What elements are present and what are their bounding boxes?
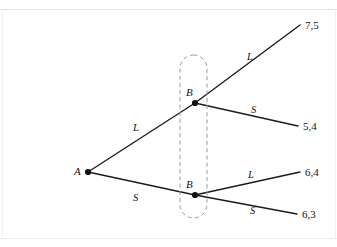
node-lower-b-dot bbox=[192, 192, 198, 198]
node-a-dot bbox=[85, 169, 91, 175]
edge-a-to-lower-b bbox=[88, 172, 195, 195]
figure-canvas: A B B L S L S L S 7,5 5,4 6,4 6,3 bbox=[0, 0, 337, 247]
edge-label-a-short: S bbox=[133, 193, 138, 204]
edge-label-lower-b-short: S bbox=[250, 206, 255, 217]
game-tree-graphic bbox=[0, 0, 337, 247]
node-label-upper-b: B bbox=[186, 87, 193, 98]
edge-upper-b-short bbox=[195, 103, 298, 126]
edge-lower-b-short bbox=[195, 195, 297, 214]
payoff-upper-long: 7,5 bbox=[305, 20, 319, 31]
payoff-lower-short: 6,3 bbox=[302, 209, 316, 220]
edge-label-upper-b-long: L bbox=[247, 52, 253, 63]
payoff-upper-short: 5,4 bbox=[303, 121, 317, 132]
node-upper-b-dot bbox=[192, 100, 198, 106]
payoff-lower-long: 6,4 bbox=[305, 167, 319, 178]
edge-label-lower-b-long: L bbox=[248, 170, 254, 181]
node-label-lower-b: B bbox=[186, 179, 193, 190]
edge-label-a-long: L bbox=[133, 123, 139, 134]
edge-a-to-upper-b bbox=[88, 103, 195, 172]
edge-label-upper-b-short: S bbox=[251, 105, 256, 116]
edge-upper-b-long bbox=[195, 25, 300, 103]
node-label-a: A bbox=[74, 166, 81, 177]
